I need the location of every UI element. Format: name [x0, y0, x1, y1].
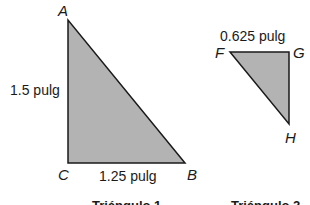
vertex-a-label: A	[58, 3, 68, 18]
vertex-b-label: B	[187, 167, 197, 182]
triangle-2-caption: Triángulo 2	[231, 199, 300, 205]
vertex-h-label: H	[285, 130, 296, 145]
vertex-c-label: C	[58, 167, 69, 182]
side-cb-length: 1.25 pulg	[99, 169, 157, 183]
triangle-1	[68, 20, 185, 163]
triangle-1-caption: Triángulo 1	[92, 199, 161, 205]
vertex-f-label: F	[215, 45, 224, 60]
triangle-2	[230, 52, 289, 124]
side-ac-length: 1.5 pulg	[10, 83, 60, 97]
side-fg-length: 0.625 pulg	[220, 29, 285, 43]
vertex-g-label: G	[293, 45, 305, 60]
